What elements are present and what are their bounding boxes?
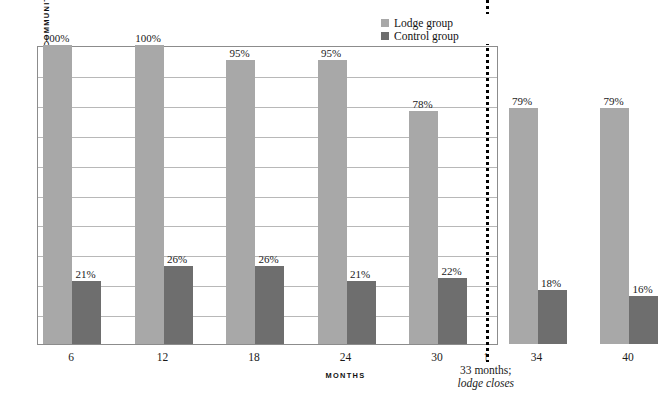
legend-item-lodge-group: Lodge group [381,16,493,29]
lodge-closes-arrow-icon: ↑ [483,349,490,362]
bar-value-label: 79% [502,95,542,107]
legend-label-control-group: Control group [394,30,459,42]
bar-lodge-30mo [409,111,438,344]
legend-label-lodge-group: Lodge group [394,17,453,29]
lodge-closes-annotation: 33 months; lodge closes [421,364,551,390]
bar-value-label: 21% [340,268,380,280]
legend-swatch-control-group [381,32,389,40]
legend-item-control-group: Control group [381,29,493,42]
x-tick-30: 30 [412,351,462,363]
bar-value-label: 100% [128,32,168,44]
legend-swatch-lodge-group [381,19,389,27]
bar-value-label: 16% [623,283,662,295]
bar-lodge-24mo [318,60,347,344]
bar-value-label: 22% [432,265,472,277]
bar-value-label: 26% [249,253,289,265]
bar-value-label: 21% [66,268,106,280]
bar-value-label: 95% [311,47,351,59]
bar-control-40mo [629,296,658,344]
bar-control-12mo [164,266,193,344]
bar-lodge-12mo [135,45,164,344]
bar-value-label: 79% [594,95,634,107]
bar-value-label: 95% [220,47,260,59]
bar-lodge-34mo [509,108,538,344]
bar-control-6mo [72,281,101,344]
x-tick-6: 6 [46,351,96,363]
bar-control-34mo [538,290,567,344]
bar-control-18mo [255,266,284,344]
bar-value-label: 100% [37,32,77,44]
x-tick-40: 40 [603,351,653,363]
bar-lodge-40mo [600,108,629,344]
lodge-closes-divider-line [486,0,489,362]
annotation-line-1: 33 months; [421,364,551,377]
x-tick-24: 24 [321,351,371,363]
bar-lodge-18mo [226,60,255,344]
plot-area [37,46,498,345]
bar-value-label: 18% [531,277,571,289]
x-axis-title: MONTHS [286,371,406,380]
x-tick-12: 12 [138,351,188,363]
bar-control-24mo [347,281,376,344]
bar-value-label: 26% [157,253,197,265]
legend: Lodge group Control group [378,14,496,44]
bar-series-container [38,47,497,344]
annotation-line-2: lodge closes [421,377,551,390]
bar-lodge-6mo [43,45,72,344]
bar-control-30mo [438,278,467,344]
x-tick-34: 34 [512,351,562,363]
x-tick-18: 18 [229,351,279,363]
bar-value-label: 78% [403,98,443,110]
